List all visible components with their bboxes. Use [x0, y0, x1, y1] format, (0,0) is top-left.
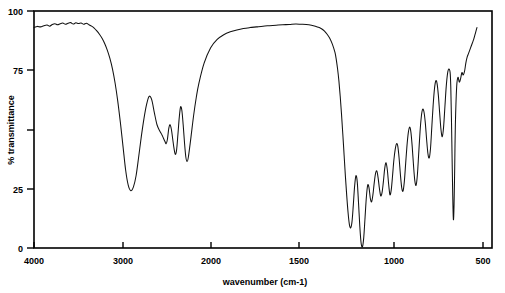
ir-spectrum-figure: 4000 3000 2000 1500 1000 500 100 75 25 0… [0, 0, 505, 293]
y-tick-label-100: 100 [8, 7, 23, 17]
x-tick-label-4000: 4000 [24, 256, 44, 266]
plot-frame [34, 11, 492, 248]
y-tick-label-0: 0 [18, 244, 23, 254]
y-tick-label-75: 75 [13, 66, 23, 76]
spectrum-canvas: 4000 3000 2000 1500 1000 500 100 75 25 0… [0, 0, 505, 293]
x-tick-label-1500: 1500 [289, 256, 309, 266]
x-tick-label-2000: 2000 [201, 256, 221, 266]
x-tick-label-3000: 3000 [113, 256, 133, 266]
x-axis-title: wavenumber (cm-1) [222, 277, 308, 287]
y-axis-title: % transmittance [6, 95, 16, 165]
x-tick-label-500: 500 [475, 256, 490, 266]
x-tick-label-1000: 1000 [384, 256, 404, 266]
y-tick-label-25: 25 [13, 185, 23, 195]
y-axis-ticks [27, 11, 34, 248]
